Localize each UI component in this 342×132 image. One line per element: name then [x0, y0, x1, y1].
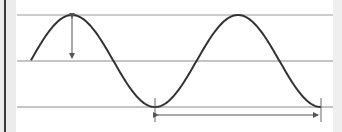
- sine-wave-diagram: [0, 0, 342, 132]
